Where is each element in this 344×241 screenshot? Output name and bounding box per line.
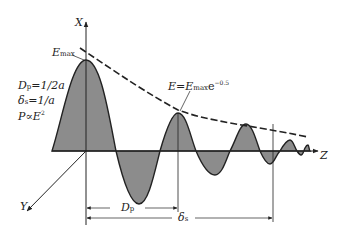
dp-dimension-label: Dp (121, 202, 134, 213)
formula-ds: δs=1/a (18, 95, 55, 106)
y-axis (27, 151, 86, 211)
formula-ds-lhs: δ (18, 94, 25, 107)
envelope-equation: E=Emaxe−0.5 (168, 80, 229, 92)
emax-main: E (52, 46, 60, 59)
formula-power-sup: 2 (41, 109, 45, 116)
envelope-curve (80, 48, 308, 137)
formula-power-lhs: P∝E (18, 110, 41, 123)
formula-dp: Dp=1/2a (18, 80, 65, 91)
env-eq: = (176, 80, 185, 93)
ds-dim-sub: s (185, 215, 189, 223)
env-sub: max (193, 84, 208, 92)
dp-dim-main: D (121, 201, 130, 214)
formula-ds-rhs: =1/a (28, 94, 54, 107)
emax-label: Emax (52, 47, 75, 58)
skin-depth-diagram: X Y Z Emax E=Emaxe−0.5 Dp=1/2a δs=1/a P∝… (0, 0, 344, 241)
diagram-canvas (0, 0, 344, 241)
ds-dimension-label: δs (178, 212, 188, 223)
env-exp: −0.5 (215, 79, 230, 86)
z-axis-label: Z (320, 150, 328, 161)
y-axis-label: Y (20, 201, 27, 212)
x-axis-label: X (75, 17, 83, 28)
ds-dim-main: δ (178, 211, 185, 224)
envelope-leader (180, 91, 190, 111)
dp-dim-sub: p (130, 205, 134, 213)
env-lhs: E (168, 80, 176, 93)
formula-dp-lhs: D (18, 79, 27, 92)
formula-power: P∝E2 (18, 110, 45, 122)
emax-sub: max (60, 50, 75, 58)
formula-dp-rhs: =1/2a (31, 79, 64, 92)
